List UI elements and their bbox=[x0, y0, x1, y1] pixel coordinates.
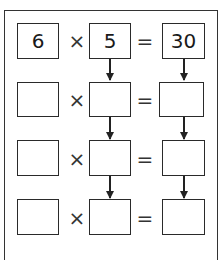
multiply-sign: × bbox=[67, 149, 87, 169]
equals-sign: = bbox=[135, 31, 155, 51]
row3-factor-a[interactable] bbox=[17, 140, 59, 176]
row1-factor-b-value: 5 bbox=[104, 29, 117, 53]
row3-factor-b[interactable] bbox=[89, 140, 131, 176]
row2-factor-a[interactable] bbox=[17, 82, 59, 117]
multiply-sign: × bbox=[67, 208, 87, 228]
multiply-sign: × bbox=[67, 31, 87, 51]
down-arrow-icon bbox=[109, 117, 111, 139]
equals-sign: = bbox=[135, 149, 155, 169]
multiply-sign: × bbox=[67, 90, 87, 110]
row1-factor-b[interactable]: 5 bbox=[89, 23, 131, 59]
row1-factor-a[interactable]: 6 bbox=[17, 23, 59, 59]
row4-factor-b[interactable] bbox=[89, 199, 131, 235]
row2-product[interactable] bbox=[159, 82, 204, 117]
down-arrow-icon bbox=[183, 117, 185, 139]
row4-factor-a[interactable] bbox=[17, 199, 59, 235]
row4-product[interactable] bbox=[162, 199, 205, 235]
down-arrow-icon bbox=[183, 176, 185, 198]
down-arrow-icon bbox=[109, 176, 111, 198]
row2-factor-b[interactable] bbox=[89, 82, 131, 117]
row1-factor-a-value: 6 bbox=[32, 29, 45, 53]
equals-sign: = bbox=[135, 90, 155, 110]
row1-product[interactable]: 30 bbox=[162, 23, 205, 59]
down-arrow-icon bbox=[109, 59, 111, 80]
down-arrow-icon bbox=[183, 59, 185, 80]
row3-product[interactable] bbox=[162, 140, 205, 176]
equals-sign: = bbox=[135, 208, 155, 228]
row1-product-value: 30 bbox=[171, 29, 196, 53]
